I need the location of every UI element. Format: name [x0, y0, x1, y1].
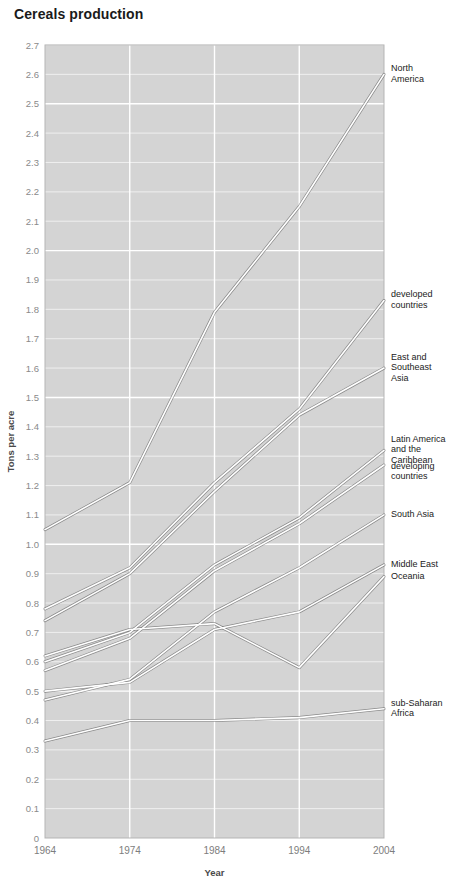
x-axis-ticks: 19641974198419942004 [34, 845, 396, 856]
y-tick-label: 0.5 [26, 686, 39, 697]
series-label-line: Middle East [391, 559, 439, 569]
y-tick-label: 2.3 [26, 157, 39, 168]
y-tick-label: 1.4 [26, 421, 39, 432]
chart-page: Cereals production 00.10.20.30.40.50.60.… [0, 0, 466, 888]
series-label-line: East and [391, 352, 427, 362]
series-label-line: North [391, 63, 413, 73]
series-label: NorthAmerica [391, 63, 424, 84]
y-tick-label: 1.1 [26, 509, 39, 520]
x-axis-title: Year [204, 867, 224, 878]
x-tick-label: 1974 [119, 845, 142, 856]
cereals-production-line-chart: 00.10.20.30.40.50.60.70.80.91.01.11.21.3… [0, 0, 466, 888]
series-label-line: Asia [391, 373, 409, 383]
series-label: South Asia [391, 509, 434, 519]
x-tick-label: 1994 [288, 845, 311, 856]
series-label-line: sub-Saharan [391, 698, 443, 708]
y-tick-label: 2.2 [26, 186, 39, 197]
y-tick-label: 1.9 [26, 274, 39, 285]
y-tick-label: 1.7 [26, 333, 39, 344]
series-label: East andSoutheastAsia [391, 352, 432, 383]
series-label-line: Latin America [391, 434, 446, 444]
y-tick-label: 0.9 [26, 568, 39, 579]
series-label: sub-SaharanAfrica [391, 698, 443, 719]
x-tick-label: 2004 [373, 845, 396, 856]
series-label: Oceania [391, 571, 425, 581]
x-tick-label: 1964 [34, 845, 57, 856]
series-label-line: countries [391, 471, 428, 481]
y-tick-label: 2.7 [26, 40, 39, 51]
y-tick-label: 1.2 [26, 480, 39, 491]
y-tick-label: 0.1 [26, 803, 39, 814]
series-label-line: and the [391, 444, 421, 454]
y-tick-label: 2.4 [26, 128, 39, 139]
x-tick-label: 1984 [203, 845, 226, 856]
y-tick-label: 2.6 [26, 69, 39, 80]
y-tick-label: 1.8 [26, 304, 39, 315]
y-tick-label: 2.5 [26, 98, 39, 109]
y-tick-label: 0.7 [26, 627, 39, 638]
series-labels: NorthAmericadevelopedcountriesEast andSo… [391, 63, 446, 718]
y-tick-label: 0.6 [26, 656, 39, 667]
series-label-line: Southeast [391, 362, 432, 372]
series-label: Middle East [391, 559, 439, 569]
y-axis-title: Tons per acre [5, 411, 16, 473]
y-tick-label: 0.2 [26, 774, 39, 785]
y-tick-label: 1.3 [26, 451, 39, 462]
series-label-line: Oceania [391, 571, 425, 581]
series-label-line: Africa [391, 708, 414, 718]
chart-container: 00.10.20.30.40.50.60.70.80.91.01.11.21.3… [0, 0, 466, 888]
y-tick-label: 2.0 [26, 245, 39, 256]
y-tick-label: 2.1 [26, 216, 39, 227]
series-label-line: South Asia [391, 509, 434, 519]
y-tick-label: 1.6 [26, 363, 39, 374]
series-label-line: developing [391, 461, 435, 471]
series-label: developedcountries [391, 289, 433, 310]
y-tick-label: 0.4 [26, 715, 39, 726]
y-tick-label: 0.8 [26, 598, 39, 609]
series-label: developingcountries [391, 461, 435, 482]
y-tick-label: 0.3 [26, 744, 39, 755]
series-label-line: America [391, 74, 424, 84]
y-axis-ticks: 00.10.20.30.40.50.60.70.80.91.01.11.21.3… [26, 40, 39, 844]
series-label-line: countries [391, 300, 428, 310]
y-tick-label: 1.0 [26, 539, 39, 550]
series-label-line: developed [391, 289, 433, 299]
y-tick-label: 0 [34, 833, 39, 844]
y-tick-label: 1.5 [26, 392, 39, 403]
